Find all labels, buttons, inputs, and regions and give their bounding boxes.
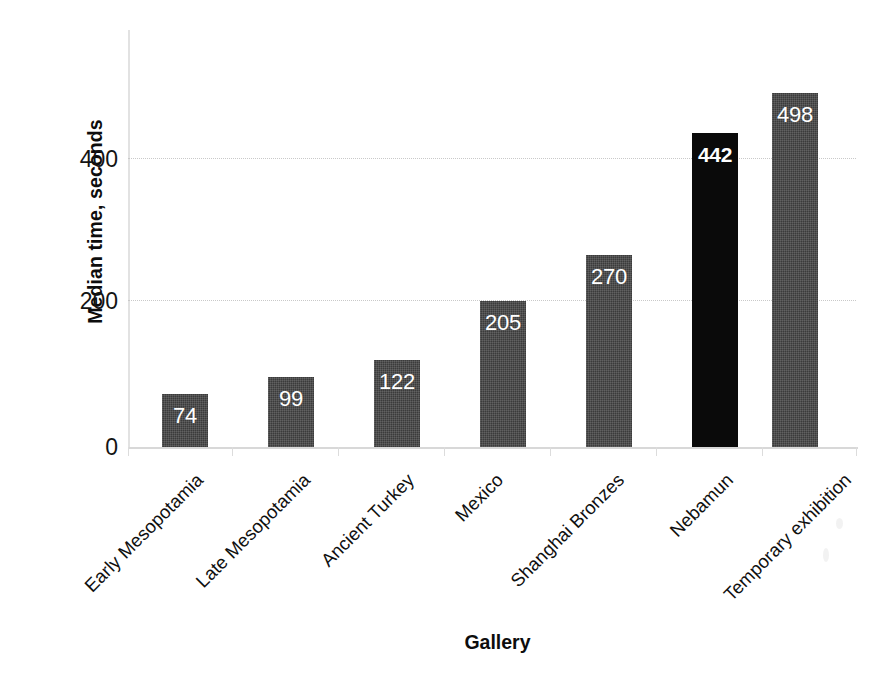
bar-mexico[interactable]: 205 [480,301,526,447]
x-tick [762,447,763,456]
x-tick [656,447,657,456]
y-axis-title: Median time, seconds [84,72,107,372]
x-tick [444,447,445,456]
x-axis-title: Gallery [0,631,885,654]
gridline-400 [128,158,856,159]
bar-temporary-exhibition[interactable]: 498 [772,93,818,447]
y-tick-label-200: 200 [48,288,118,315]
bar-late-mesopotamia[interactable]: 99 [268,377,314,447]
x-tick [338,447,339,456]
bar-nebamun[interactable]: 442 [692,133,738,447]
x-tick [856,447,857,456]
bar-ancient-turkey[interactable]: 122 [374,360,420,447]
bar-early-mesopotamia[interactable]: 74 [162,394,208,447]
bar-value-label: 122 [374,371,420,393]
bar-value-label: 442 [692,144,738,165]
bar-value-label: 205 [480,312,526,334]
y-tick-label-0: 0 [48,434,118,461]
bar-value-label: 99 [268,388,314,410]
x-tick [232,447,233,456]
x-tick [128,447,129,456]
plot-area: 74 99 122 205 270 442 498 [128,30,856,447]
x-tick [550,447,551,456]
x-axis-title-text: Gallery [464,631,530,653]
bar-value-label: 498 [772,104,818,126]
bar-value-label: 270 [586,266,632,288]
bar-shanghai-bronzes[interactable]: 270 [586,255,632,447]
scan-artifact [836,518,843,529]
x-axis-line [128,447,858,449]
bar-value-label: 74 [162,405,208,427]
y-tick-label-400: 400 [48,146,118,173]
bar-chart: Median time, seconds 400 200 0 74 99 122… [0,0,885,686]
scan-artifact [823,548,829,562]
